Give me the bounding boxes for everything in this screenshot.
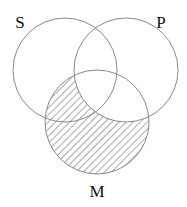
label-p: P: [156, 13, 165, 32]
label-m: M: [89, 182, 104, 201]
label-s: S: [15, 13, 24, 32]
venn-diagram: S P M: [0, 0, 187, 207]
